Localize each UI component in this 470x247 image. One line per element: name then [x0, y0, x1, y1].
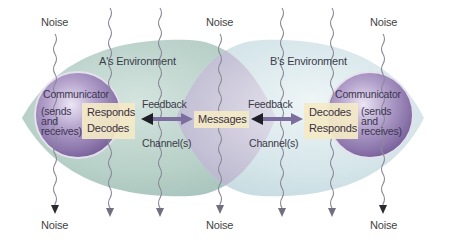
communicator-a-process-decodes: Decodes [87, 122, 129, 134]
noise-label-top-left: Noise [41, 16, 68, 28]
noise-label-bottom-left: Noise [41, 219, 68, 231]
environment-b-label: B's Environment [270, 55, 347, 67]
noise-label-bottom-center: Noise [206, 219, 233, 231]
noise-label-top-center: Noise [206, 16, 233, 28]
communicator-a-process-responds: Responds [87, 106, 135, 118]
channel-label-right: Channel(s) [249, 137, 298, 149]
communicator-a-title: Communicator [43, 89, 109, 99]
feedback-label-right: Feedback [248, 98, 293, 110]
noise-label-bottom-right: Noise [370, 219, 397, 231]
communicator-b-description: (sends and receives) [361, 106, 402, 136]
channel-label-left: Channel(s) [142, 137, 191, 149]
communicator-b-title: Communicator [335, 89, 401, 99]
messages-label: Messages [198, 113, 247, 125]
feedback-label-left: Feedback [142, 98, 187, 110]
environment-a-label: A's Environment [99, 55, 176, 67]
communicator-b-process-responds: Responds [309, 122, 357, 134]
communicator-a-description: (sends and receives) [41, 106, 82, 136]
communication-diagram: Noise Noise Noise Noise Noise Noise A's … [0, 0, 470, 247]
communicator-b-process-decodes: Decodes [309, 106, 351, 118]
communicator-b-desc-line: receives) [361, 126, 402, 136]
communicator-a-desc-line: receives) [41, 126, 82, 136]
noise-label-top-right: Noise [370, 16, 397, 28]
